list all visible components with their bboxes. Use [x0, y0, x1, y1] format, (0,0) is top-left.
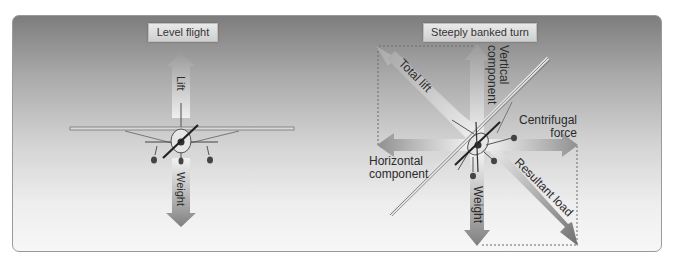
- total-lift-label: Total lift: [396, 56, 435, 95]
- weight-label-banked: Weight: [471, 186, 485, 224]
- vertical-component-label-2: component: [485, 45, 499, 105]
- weight-label-left: Weight: [175, 172, 187, 206]
- centrifugal-force-label-1: Centrifugal: [519, 113, 577, 127]
- resultant-load-arrow: [484, 140, 578, 246]
- horizontal-component-label-1: Horizontal: [369, 154, 423, 168]
- horizontal-component-label-2: component: [369, 167, 429, 181]
- resultant-load-label: Resultant load: [512, 155, 576, 219]
- steeply-banked-turn-title: Steeply banked turn: [423, 23, 537, 42]
- level-flight-title: Level flight: [148, 23, 218, 42]
- centrifugal-force-label-2: force: [550, 126, 577, 140]
- lift-label: Lift: [175, 76, 187, 91]
- diagram-artwork: Lift Weight: [0, 0, 673, 262]
- total-lift-arrow: [376, 46, 482, 142]
